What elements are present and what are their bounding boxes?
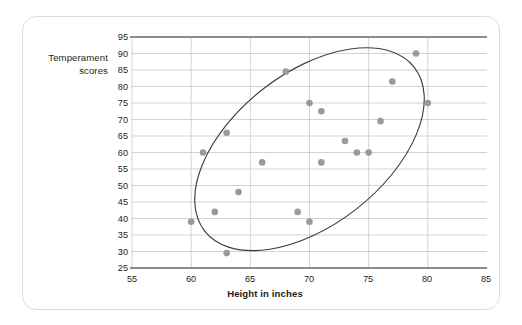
plot-canvas: [0, 0, 522, 325]
data-point: [413, 50, 420, 57]
data-point: [342, 138, 349, 145]
data-point: [212, 209, 219, 216]
data-point: [306, 219, 313, 226]
scatter-plot: Temperament scores Height in inches 95 9…: [0, 0, 522, 325]
data-point: [425, 100, 432, 107]
data-point: [306, 100, 313, 107]
data-point: [200, 149, 207, 156]
data-point: [223, 250, 230, 257]
data-point: [377, 118, 384, 125]
data-point: [283, 68, 290, 75]
gridlines: [132, 37, 487, 268]
data-point: [354, 149, 361, 156]
data-point: [259, 159, 266, 166]
data-point: [235, 189, 242, 196]
data-point: [294, 209, 301, 216]
data-point: [389, 78, 396, 85]
data-point: [188, 219, 195, 226]
data-point: [365, 149, 372, 156]
data-point: [223, 129, 230, 136]
data-point: [318, 108, 325, 115]
data-point: [318, 159, 325, 166]
